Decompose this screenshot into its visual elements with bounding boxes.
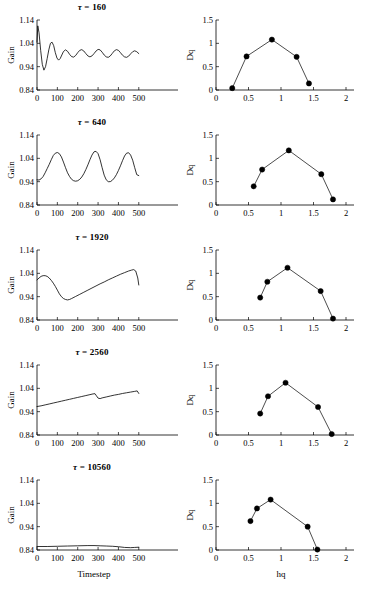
data-curve — [37, 26, 139, 70]
y-tick-label: 0 — [209, 545, 213, 555]
gain-axis-label: Gain — [6, 276, 16, 294]
data-point-marker — [254, 506, 259, 511]
x-tick-label: 0 — [35, 438, 39, 448]
multi-panel-figure: τ = 1600.840.941.041.140100200300400500G… — [0, 0, 368, 604]
x-tick-label: 200 — [71, 438, 84, 448]
y-tick-label: 1.04 — [19, 498, 35, 508]
x-tick-label: 0.5 — [243, 93, 254, 103]
data-curve — [37, 391, 139, 407]
x-tick-label: 0.5 — [243, 553, 254, 563]
y-tick-label: 0.5 — [202, 177, 213, 187]
data-point-marker — [248, 518, 253, 523]
figure-row: τ = 25600.840.941.041.140100200300400500… — [0, 345, 368, 460]
y-tick-label: 0 — [209, 85, 213, 95]
y-tick-label: 0.84 — [19, 545, 35, 555]
y-tick-label: 1.5 — [202, 475, 213, 485]
dq-axis-label: Dq — [185, 164, 195, 175]
x-tick-label: 200 — [71, 93, 84, 103]
figure-row: τ = 6400.840.941.041.140100200300400500G… — [0, 115, 368, 230]
x-tick-label: 400 — [112, 93, 125, 103]
y-tick-label: 1.04 — [19, 153, 35, 163]
dq-axes: 00.511.500.511.52Dq — [184, 115, 368, 230]
x-tick-label: 400 — [112, 323, 125, 333]
data-curve — [232, 40, 309, 89]
y-tick-label: 0.84 — [19, 85, 35, 95]
x-tick-label: 100 — [51, 553, 64, 563]
figure-row: τ = 19200.840.941.041.140100200300400500… — [0, 230, 368, 345]
y-tick-label: 1.5 — [202, 15, 213, 25]
gain-plot-panel: τ = 19200.840.941.041.140100200300400500… — [0, 230, 184, 345]
gain-axes: 0.840.941.041.140100200300400500Gain — [0, 345, 184, 460]
y-tick-label: 0.94 — [19, 522, 35, 532]
x-tick-label: 0 — [35, 553, 39, 563]
dq-axis-label: Dq — [185, 279, 195, 290]
y-tick-label: 0.84 — [19, 200, 35, 210]
data-point-marker — [294, 54, 299, 59]
y-tick-label: 1.5 — [202, 130, 213, 140]
data-point-marker — [260, 167, 265, 172]
data-curve — [37, 270, 139, 300]
x-tick-label: 200 — [71, 323, 84, 333]
data-curve — [260, 383, 332, 434]
x-tick-label: 0 — [35, 323, 39, 333]
gain-axis-label: Gain — [6, 391, 16, 409]
y-tick-label: 0.84 — [19, 430, 35, 440]
x-tick-label: 300 — [92, 323, 105, 333]
timestep-axis-label: Timestep — [77, 569, 111, 579]
y-tick-label: 1.5 — [202, 245, 213, 255]
dq-axes: 00.511.500.511.52Dq — [184, 230, 368, 345]
figure-row: τ = 1600.840.941.041.140100200300400500G… — [0, 0, 368, 115]
gain-plot-panel: τ = 1600.840.941.041.140100200300400500G… — [0, 0, 184, 115]
y-tick-label: 0 — [209, 315, 213, 325]
gain-axis-label: Gain — [6, 46, 16, 64]
y-tick-label: 0.5 — [202, 292, 213, 302]
x-tick-label: 2 — [344, 93, 348, 103]
hq-axis-label: hq — [277, 569, 287, 579]
y-tick-label: 1.04 — [19, 268, 35, 278]
x-tick-label: 1 — [279, 553, 283, 563]
data-point-marker — [244, 54, 249, 59]
x-tick-label: 0 — [214, 553, 218, 563]
y-tick-label: 1.14 — [19, 130, 35, 140]
x-tick-label: 500 — [132, 553, 145, 563]
data-point-marker — [269, 37, 274, 42]
dq-plot-panel: 00.511.500.511.52Dq — [184, 115, 368, 230]
x-tick-label: 0.5 — [243, 208, 254, 218]
data-point-marker — [283, 380, 288, 385]
dq-axes: 00.511.500.511.52Dq — [184, 345, 368, 460]
x-tick-label: 2 — [344, 438, 348, 448]
gain-plot-panel: τ = 105600.840.941.041.14010020030040050… — [0, 460, 184, 604]
y-tick-label: 1 — [209, 268, 213, 278]
x-tick-label: 0 — [214, 438, 218, 448]
gain-plot-panel: τ = 6400.840.941.041.140100200300400500G… — [0, 115, 184, 230]
dq-axis-label: Dq — [185, 509, 195, 520]
x-tick-label: 500 — [132, 208, 145, 218]
x-tick-label: 0.5 — [243, 323, 254, 333]
x-tick-label: 300 — [92, 438, 105, 448]
dq-plot-panel: 00.511.500.511.52Dq — [184, 230, 368, 345]
x-tick-label: 100 — [51, 438, 64, 448]
data-curve — [37, 546, 139, 548]
y-tick-label: 0.5 — [202, 62, 213, 72]
y-tick-label: 1.04 — [19, 38, 35, 48]
y-tick-label: 1 — [209, 38, 213, 48]
y-tick-label: 1.5 — [202, 360, 213, 370]
y-tick-label: 0.84 — [19, 315, 35, 325]
x-tick-label: 100 — [51, 323, 64, 333]
y-tick-label: 0.94 — [19, 292, 35, 302]
x-tick-label: 1.5 — [308, 323, 319, 333]
x-tick-label: 200 — [71, 553, 84, 563]
x-tick-label: 500 — [132, 323, 145, 333]
x-tick-label: 400 — [112, 208, 125, 218]
x-tick-label: 1 — [279, 438, 283, 448]
x-tick-label: 0 — [35, 208, 39, 218]
x-tick-label: 300 — [92, 553, 105, 563]
x-tick-label: 0 — [214, 93, 218, 103]
x-tick-label: 300 — [92, 93, 105, 103]
x-tick-label: 0.5 — [243, 438, 254, 448]
data-point-marker — [329, 431, 334, 436]
data-point-marker — [265, 279, 270, 284]
data-point-marker — [330, 316, 335, 321]
x-tick-label: 1.5 — [308, 93, 319, 103]
dq-axis-label: Dq — [185, 49, 195, 60]
